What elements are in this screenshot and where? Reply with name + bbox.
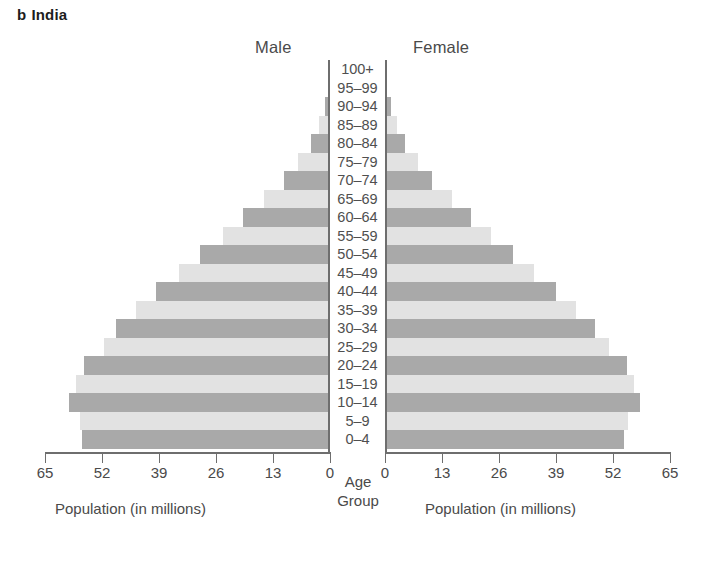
x-axis-label-right: Population (in millions)	[425, 500, 576, 517]
bar-male	[284, 171, 330, 190]
female-header-label: Female	[413, 38, 469, 57]
x-tick	[613, 452, 614, 463]
age-group-line-2: Group	[330, 491, 386, 510]
bar-male	[136, 301, 330, 320]
x-tick-label: 26	[491, 464, 508, 481]
bar-female	[385, 153, 418, 172]
age-group-labels: 100+95–9990–9485–8980–8475–7970–7465–696…	[330, 60, 385, 452]
y-axis-label: Age Group	[330, 472, 386, 510]
age-group-line-1: Age	[330, 472, 386, 491]
bar-male	[76, 375, 330, 394]
x-tick-label: 65	[37, 464, 54, 481]
age-group-label: 10–14	[330, 393, 385, 412]
age-group-label: 25–29	[330, 338, 385, 357]
bar-female	[385, 412, 628, 431]
x-tick	[45, 452, 46, 463]
x-tick	[499, 452, 500, 463]
page-title: bIndia	[17, 6, 67, 23]
bar-male	[82, 430, 330, 449]
bar-female	[385, 190, 452, 209]
x-tick-label: 52	[94, 464, 111, 481]
age-group-label: 100+	[330, 60, 385, 79]
age-group-label: 85–89	[330, 116, 385, 135]
age-group-label: 50–54	[330, 245, 385, 264]
bar-female	[385, 282, 556, 301]
age-group-label: 30–34	[330, 319, 385, 338]
x-axis-label-left: Population (in millions)	[55, 500, 206, 517]
bar-female	[385, 227, 491, 246]
x-tick	[556, 452, 557, 463]
panel-letter: b	[17, 6, 26, 23]
bar-female	[385, 393, 640, 412]
age-group-label: 95–99	[330, 79, 385, 98]
age-group-label: 70–74	[330, 171, 385, 190]
x-tick	[330, 452, 331, 463]
bar-female	[385, 301, 576, 320]
age-group-label: 5–9	[330, 412, 385, 431]
x-tick	[670, 452, 671, 463]
age-group-label: 35–39	[330, 301, 385, 320]
male-header-label: Male	[255, 38, 292, 57]
bar-male	[223, 227, 330, 246]
x-tick-label: 13	[265, 464, 282, 481]
bar-female	[385, 356, 627, 375]
bar-female	[385, 208, 471, 227]
x-axis-right	[385, 452, 670, 454]
x-axis-left	[45, 452, 330, 454]
bar-female	[385, 338, 609, 357]
axis-line-right	[385, 60, 387, 454]
x-tick	[442, 452, 443, 463]
x-tick-label: 13	[434, 464, 451, 481]
age-group-label: 0–4	[330, 430, 385, 449]
age-group-label: 15–19	[330, 375, 385, 394]
age-group-label: 65–69	[330, 190, 385, 209]
x-tick-label: 39	[151, 464, 168, 481]
bar-female	[385, 264, 534, 283]
bar-male	[156, 282, 330, 301]
bar-female	[385, 319, 595, 338]
bar-female	[385, 375, 634, 394]
bar-male	[264, 190, 330, 209]
bar-female	[385, 245, 513, 264]
panel-name: India	[31, 6, 67, 23]
x-tick-label: 65	[662, 464, 679, 481]
bar-male	[179, 264, 330, 283]
age-group-label: 55–59	[330, 227, 385, 246]
age-group-label: 20–24	[330, 356, 385, 375]
bar-male	[298, 153, 330, 172]
x-tick	[102, 452, 103, 463]
age-group-label: 45–49	[330, 264, 385, 283]
age-group-label: 90–94	[330, 97, 385, 116]
age-group-label: 75–79	[330, 153, 385, 172]
bar-male	[84, 356, 330, 375]
x-tick	[273, 452, 274, 463]
bar-male	[104, 338, 330, 357]
bar-male	[116, 319, 330, 338]
x-tick-label: 39	[548, 464, 565, 481]
x-tick	[159, 452, 160, 463]
bar-male	[200, 245, 330, 264]
age-group-label: 80–84	[330, 134, 385, 153]
age-group-label: 40–44	[330, 282, 385, 301]
bar-male	[69, 393, 330, 412]
x-tick-label: 26	[208, 464, 225, 481]
bar-male	[243, 208, 330, 227]
bar-female	[385, 134, 405, 153]
x-tick	[216, 452, 217, 463]
bar-male	[80, 412, 330, 431]
bar-female	[385, 171, 432, 190]
bar-female	[385, 430, 624, 449]
age-group-label: 60–64	[330, 208, 385, 227]
x-tick-label: 52	[605, 464, 622, 481]
